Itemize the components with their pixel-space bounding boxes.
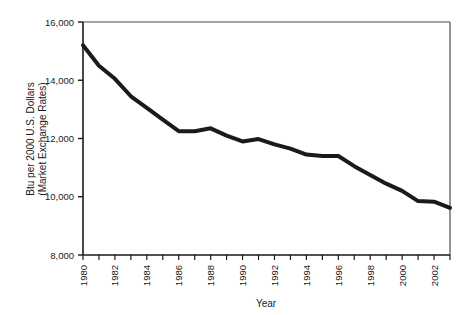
x-axis-tick-labels: 1980198219841986198819901992199419961998… [78,265,440,286]
y-axis-tick-labels: 8,00010,00012,00014,00016,000 [45,17,74,261]
x-axis-title: Year [256,298,277,309]
y-tick-label: 8,000 [50,250,74,261]
x-tick-label: 1992 [269,265,280,286]
chart-container: 8,00010,00012,00014,00016,000 1980198219… [0,0,466,315]
y-tick-label: 16,000 [45,17,74,28]
x-tick-label: 2002 [429,265,440,286]
x-tick-label: 1998 [365,265,376,286]
x-tick-label: 1994 [301,265,312,286]
x-tick-label: 1986 [173,265,184,286]
x-tick-label: 1984 [141,265,152,286]
x-tick-label: 1982 [109,265,120,286]
x-tick-label: 1996 [333,265,344,286]
y-axis-title-line2: (Market Exchange Rates) [37,82,48,195]
y-axis-title-line1: Btu per 2000 U.S. Dollars [25,82,36,195]
x-tick-label: 1990 [237,265,248,286]
y-tick-label: 14,000 [45,75,74,86]
plot-background [83,22,450,255]
x-tick-label: 1980 [78,265,89,286]
y-tick-label: 12,000 [45,133,74,144]
line-chart: 8,00010,00012,00014,00016,000 1980198219… [0,0,466,315]
plot-frame [83,22,450,255]
x-tick-label: 2000 [397,265,408,286]
x-tick-label: 1988 [205,265,216,286]
y-tick-label: 10,000 [45,191,74,202]
